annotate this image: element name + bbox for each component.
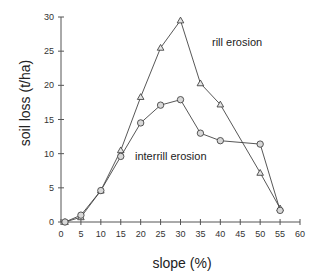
circle-marker: [157, 102, 163, 108]
x-tick-label: 10: [96, 229, 106, 239]
x-tick-label: 60: [295, 229, 305, 239]
y-tick-label: 5: [49, 183, 54, 193]
y-tick-label: 25: [44, 46, 54, 56]
x-tick-label: 20: [136, 229, 146, 239]
circle-marker: [197, 130, 203, 136]
triangle-marker: [177, 17, 184, 23]
triangle-marker: [137, 94, 144, 100]
triangle-marker: [197, 80, 204, 86]
y-tick-label: 10: [44, 149, 54, 159]
circle-marker: [137, 120, 143, 126]
circle-marker: [217, 137, 223, 143]
circle-marker: [277, 207, 283, 213]
x-axis-title: slope (%): [152, 255, 211, 271]
circle-marker: [62, 219, 68, 225]
series-group: [62, 17, 284, 225]
circle-marker: [177, 96, 183, 102]
interrill-erosion-label: interrill erosion: [135, 150, 207, 162]
x-tick-label: 5: [78, 229, 83, 239]
axes: [61, 17, 300, 222]
x-tick-label: 50: [255, 229, 265, 239]
y-tick-label: 0: [49, 217, 54, 227]
x-tick-label: 35: [195, 229, 205, 239]
circle-marker: [78, 212, 84, 218]
x-tick-label: 15: [116, 229, 126, 239]
series-line: [65, 20, 280, 222]
x-tick-label: 55: [275, 229, 285, 239]
x-tick-label: 40: [215, 229, 225, 239]
rill-erosion-label: rill erosion: [212, 36, 262, 48]
x-tick-label: 0: [58, 229, 63, 239]
series-rill-erosion: [62, 17, 284, 224]
y-tick-label: 20: [44, 80, 54, 90]
x-tick-label: 25: [156, 229, 166, 239]
y-tick-label: 30: [44, 12, 54, 22]
y-axis-title: soil loss (t/ha): [17, 60, 33, 146]
circle-marker: [118, 153, 124, 159]
x-tick-label: 45: [235, 229, 245, 239]
soil-loss-chart: 051015202530354045505560 051015202530 sl…: [0, 0, 319, 279]
circle-marker: [98, 187, 104, 193]
y-tick-label: 15: [44, 115, 54, 125]
triangle-marker: [257, 170, 264, 176]
x-tick-label: 30: [175, 229, 185, 239]
circle-marker: [257, 141, 263, 147]
